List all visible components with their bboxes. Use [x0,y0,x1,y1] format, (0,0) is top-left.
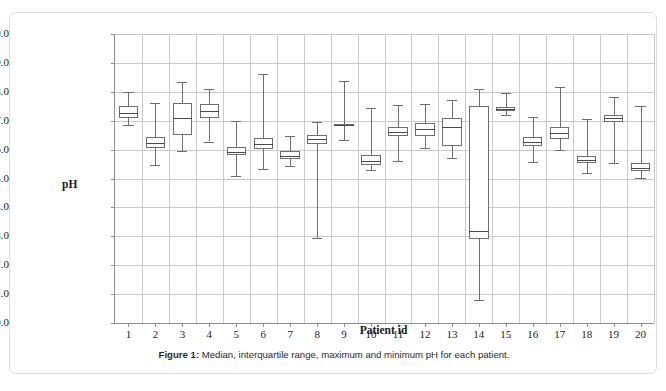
plot-area: 10.09.08.07.06.05.04.03.02.01.00.0123456… [114,34,654,324]
whisker-cap-min [609,163,619,164]
x-gridline [600,34,601,323]
median-line [173,118,192,119]
y-tick-label: 9.0 [0,56,9,68]
x-gridline [627,34,628,323]
whisker-cap-min [528,162,538,163]
whisker-cap-min [339,140,349,141]
figure-caption: Figure 1: Median, interquartile range, m… [10,349,658,360]
whisker-cap-min [366,170,376,171]
whisker-upper [452,100,453,118]
whisker-cap-max [339,81,349,82]
median-line [119,113,138,114]
iqr-box [280,151,299,159]
whisker-upper [614,97,615,115]
y-tick-mark [111,63,115,64]
x-gridline [358,34,359,323]
whisker-cap-min [258,169,268,170]
y-tick-mark [111,150,115,151]
median-line [496,109,515,110]
whisker-cap-max [555,87,565,88]
whisker-upper [533,117,534,137]
x-gridline [277,34,278,323]
y-tick-label: 3.0 [0,229,9,241]
median-line [227,152,246,153]
whisker-upper [236,121,237,148]
whisker-cap-min [150,165,160,166]
median-line [146,143,165,144]
x-gridline [546,34,547,323]
y-axis-title: pH [62,178,78,190]
whisker-lower [587,163,588,174]
y-tick-mark [111,207,115,208]
whisker-lower [236,155,237,176]
x-gridline [492,34,493,323]
whisker-cap-min [420,148,430,149]
whisker-lower [128,118,129,125]
whisker-cap-max [285,136,295,137]
y-tick-label: 7.0 [0,114,9,126]
y-tick-label: 4.0 [0,200,9,212]
median-line [523,142,542,143]
whisker-lower [263,149,264,169]
whisker-lower [398,136,399,161]
whisker-lower [182,135,183,151]
median-line [280,156,299,157]
whisker-cap-max [366,108,376,109]
median-line [604,118,623,119]
whisker-lower [290,159,291,167]
whisker-upper [128,92,129,106]
whisker-cap-max [420,104,430,105]
y-tick-label: 2.0 [0,258,9,270]
y-tick-mark [111,265,115,266]
whisker-cap-min [501,115,511,116]
box-plot-chart: pH 10.09.08.07.06.05.04.03.02.01.00.0123… [10,13,658,343]
whisker-lower [209,118,210,141]
whisker-lower [155,148,156,165]
iqr-box [442,118,461,146]
whisker-upper [560,87,561,127]
median-line [200,111,219,112]
x-gridline [196,34,197,323]
whisker-lower [614,122,615,162]
whisker-upper [506,93,507,107]
y-tick-label: 10.0 [0,27,9,39]
x-gridline [142,34,143,323]
y-tick-mark [111,92,115,93]
y-tick-label: 0.0 [0,316,9,328]
whisker-cap-max [474,89,484,90]
whisker-cap-min [312,238,322,239]
whisker-cap-min [635,178,645,179]
whisker-upper [587,119,588,156]
whisker-cap-max [177,82,187,83]
whisker-upper [425,104,426,123]
figure-frame: pH 10.09.08.07.06.05.04.03.02.01.00.0123… [9,12,657,374]
whisker-cap-min [474,300,484,301]
median-line [307,139,326,140]
whisker-lower [452,146,453,158]
x-gridline [438,34,439,323]
whisker-cap-max [150,103,160,104]
median-line [361,161,380,162]
x-gridline [465,34,466,323]
median-line [442,127,461,128]
whisker-upper [290,136,291,151]
median-line [550,133,569,134]
whisker-cap-min [231,176,241,177]
y-tick-label: 6.0 [0,143,9,155]
whisker-lower [344,126,345,140]
x-gridline [331,34,332,323]
whisker-cap-max [123,92,133,93]
whisker-cap-max [528,117,538,118]
whisker-cap-max [204,89,214,90]
y-tick-mark [111,121,115,122]
iqr-box [227,147,246,155]
whisker-lower [479,239,480,300]
whisker-upper [344,81,345,124]
x-gridline [654,34,655,323]
x-axis-title: Patient id [114,324,653,336]
x-gridline [385,34,386,323]
whisker-upper [155,103,156,137]
whisker-lower [560,139,561,151]
y-tick-label: 5.0 [0,172,9,184]
whisker-lower [317,144,318,238]
